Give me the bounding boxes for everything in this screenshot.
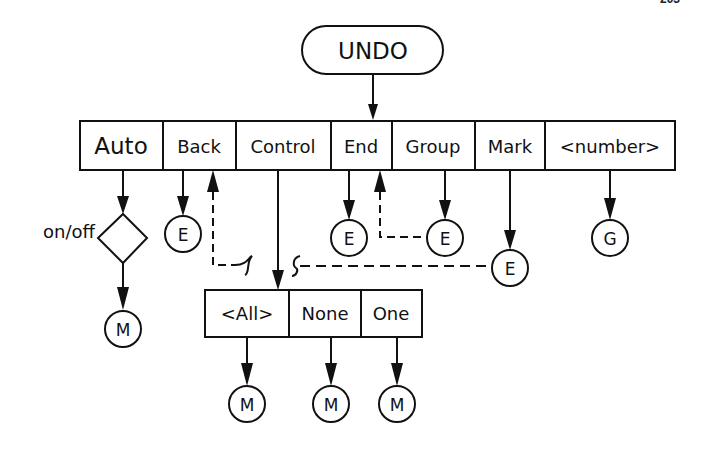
arrowhead-icon [391, 363, 403, 386]
mark-terminal-label: E [505, 259, 516, 279]
menu-item-number[interactable]: <number> [560, 136, 660, 157]
arrowhead-icon [439, 200, 451, 220]
arrowhead-icon [343, 200, 355, 220]
all-terminal-label: M [240, 395, 255, 415]
undo-command-diagram: UNDO Auto Back Control End Group Mark <n… [0, 0, 701, 451]
one-terminal-label: M [390, 395, 405, 415]
arrowhead-icon [117, 196, 129, 214]
on-off-decision-diamond [98, 214, 147, 263]
menu-item-end[interactable]: End [344, 136, 378, 157]
group-terminal-label: E [440, 229, 451, 249]
on-off-label: on/off [43, 221, 95, 242]
arrowhead-icon [117, 287, 129, 310]
arrowhead-icon [325, 363, 337, 386]
arrowhead-icon [177, 196, 189, 216]
submenu-item-all[interactable]: <All> [221, 303, 273, 324]
line-jump-icon [292, 256, 300, 276]
auto-terminal-label: M [116, 320, 131, 340]
undo-label: UNDO [338, 38, 408, 64]
menu-item-control[interactable]: Control [250, 136, 315, 157]
arrowhead-icon [272, 270, 284, 290]
arrowhead-icon [241, 363, 253, 386]
menu-item-mark[interactable]: Mark [488, 136, 533, 157]
arrowhead-up-icon [374, 170, 386, 192]
end-terminal-label: E [344, 229, 355, 249]
back-return-dashed-line [213, 192, 235, 265]
menu-item-group[interactable]: Group [406, 136, 461, 157]
submenu-item-none[interactable]: None [302, 303, 349, 324]
number-terminal-label: G [603, 229, 616, 249]
arrowhead-icon [604, 198, 616, 220]
menu-item-auto[interactable]: Auto [94, 133, 147, 159]
end-return-dashed-line [380, 192, 427, 237]
arrowhead-icon [368, 104, 378, 120]
back-terminal-label: E [178, 225, 189, 245]
menu-item-back[interactable]: Back [177, 136, 221, 157]
submenu-item-one[interactable]: One [373, 303, 410, 324]
line-jump-icon [235, 256, 252, 275]
none-terminal-label: M [324, 395, 339, 415]
arrowhead-up-icon [207, 170, 219, 192]
arrowhead-icon [504, 230, 516, 250]
